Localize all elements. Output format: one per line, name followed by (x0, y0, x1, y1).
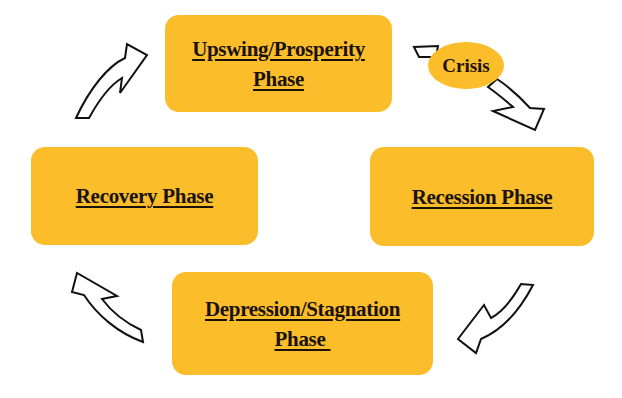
crisis-ellipse: Crisis (428, 42, 504, 89)
cycle-arrows (0, 0, 622, 398)
business-cycle-diagram: Upswing/Prosperity Phase Crisis Recovery… (0, 0, 622, 398)
arrow-recovery-to-upswing-icon (76, 44, 147, 118)
arrow-crisis-to-recession-icon (488, 79, 544, 130)
crisis-label: Crisis (442, 55, 490, 77)
arrow-recession-to-depression-icon (458, 284, 533, 353)
arrow-depression-to-recovery-icon (72, 273, 143, 342)
